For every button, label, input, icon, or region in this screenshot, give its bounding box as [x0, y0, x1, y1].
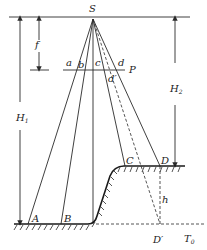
- label-P: P: [128, 64, 136, 75]
- ray-S-B: [61, 19, 93, 224]
- label-C: C: [126, 155, 134, 166]
- label-B: B: [63, 213, 71, 224]
- label-A: A: [31, 213, 39, 224]
- label-d-prime: d′: [108, 73, 117, 84]
- terrain-profile: [14, 166, 185, 224]
- ray-S-D: [93, 19, 160, 166]
- ray-S-C: [93, 19, 125, 166]
- label-T0: T0: [184, 233, 195, 245]
- label-b: b: [78, 59, 84, 70]
- label-h: h: [162, 194, 168, 205]
- label-c: c: [95, 57, 101, 68]
- label-a: a: [66, 57, 72, 68]
- relief-displacement-diagram: S f a b c d P d′ H1 H2 A B C D h D′ T0: [0, 0, 207, 250]
- label-S: S: [89, 3, 96, 14]
- ray-S-D-prime-dashed: [93, 19, 160, 224]
- label-H1: H1: [15, 112, 29, 124]
- label-H2: H2: [169, 83, 183, 95]
- label-D: D: [160, 155, 169, 166]
- label-f: f: [34, 39, 41, 50]
- label-d: d: [118, 57, 124, 68]
- label-D-prime: D′: [152, 234, 164, 245]
